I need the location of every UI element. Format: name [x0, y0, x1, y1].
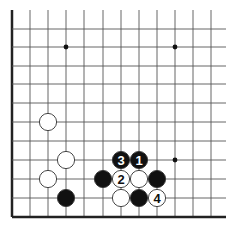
- star-point-icon: [173, 45, 178, 50]
- white-stone-icon: [39, 170, 56, 187]
- black-stone-icon: [148, 170, 165, 187]
- black-stone: [130, 189, 147, 206]
- white-stone-2: 2: [112, 170, 129, 187]
- black-stone-icon: [130, 189, 147, 206]
- go-board: 3124: [0, 0, 235, 227]
- white-stone-icon: [130, 170, 147, 187]
- white-stone: [57, 151, 74, 168]
- star-points: [64, 45, 178, 163]
- star-point-icon: [64, 45, 69, 50]
- move-number: 2: [117, 172, 124, 187]
- white-stone: [39, 170, 56, 187]
- black-stone: [94, 170, 111, 187]
- black-stone-icon: [57, 189, 74, 206]
- white-stone: [112, 189, 129, 206]
- go-board-svg: 3124: [0, 0, 235, 227]
- move-number: 4: [153, 191, 161, 206]
- black-stone: [148, 170, 165, 187]
- move-number: 3: [117, 153, 124, 168]
- star-point-icon: [173, 158, 178, 163]
- white-stone-4: 4: [148, 189, 165, 206]
- black-stone-1: 1: [130, 151, 147, 168]
- white-stone: [130, 170, 147, 187]
- white-stone-icon: [39, 113, 56, 130]
- white-stone-icon: [57, 151, 74, 168]
- move-number: 1: [135, 153, 142, 168]
- white-stone: [39, 113, 56, 130]
- black-stone-3: 3: [112, 151, 129, 168]
- black-stone: [57, 189, 74, 206]
- white-stone-icon: [112, 189, 129, 206]
- black-stone-icon: [94, 170, 111, 187]
